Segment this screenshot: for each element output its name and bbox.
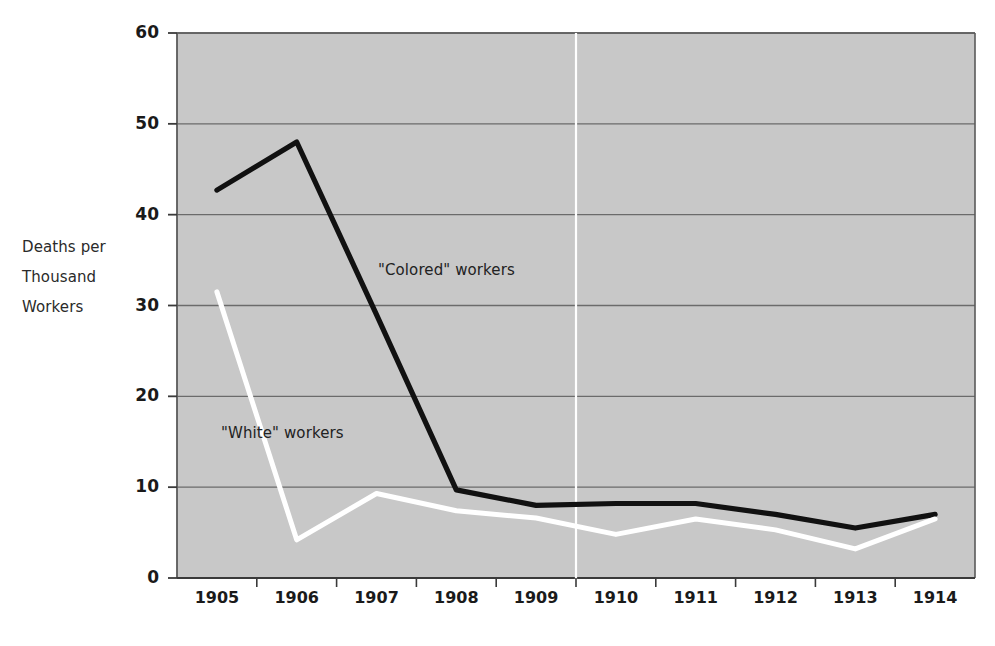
y-tick-label: 40 [115, 204, 159, 224]
y-tick-label: 50 [115, 113, 159, 133]
series-annotation-white: "White" workers [221, 424, 344, 442]
x-tick-label: 1912 [744, 588, 808, 607]
x-tick-label: 1911 [664, 588, 728, 607]
x-tick-label: 1908 [424, 588, 488, 607]
y-tick-label: 60 [115, 22, 159, 42]
x-tick-label: 1905 [185, 588, 249, 607]
x-tick-label: 1914 [903, 588, 967, 607]
chart-figure: Deaths per Thousand Workers "Colored" wo… [0, 0, 995, 646]
x-tick-label: 1910 [584, 588, 648, 607]
y-axis-title-line-2: Thousand [22, 262, 152, 292]
y-tick-label: 0 [115, 567, 159, 587]
plot-area [0, 0, 995, 646]
x-tick-label: 1906 [265, 588, 329, 607]
y-tick-label: 30 [115, 295, 159, 315]
series-annotation-colored: "Colored" workers [378, 261, 515, 279]
y-tick-label: 10 [115, 476, 159, 496]
x-tick-label: 1913 [823, 588, 887, 607]
y-tick-label: 20 [115, 385, 159, 405]
x-tick-label: 1907 [345, 588, 409, 607]
x-tick-label: 1909 [504, 588, 568, 607]
y-axis-title-line-1: Deaths per [22, 232, 152, 262]
